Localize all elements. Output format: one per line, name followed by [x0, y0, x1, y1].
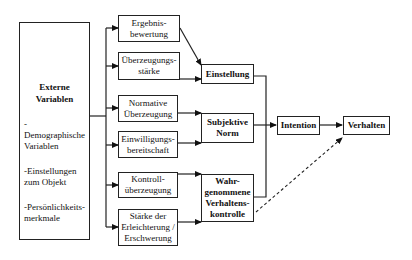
- belief-box-belief-strength: Überzeugungs- stärke: [118, 52, 180, 80]
- attitude-label: Einstellung: [206, 69, 250, 80]
- external-variables-box: Externe Variablen -Demographische Variab…: [19, 22, 90, 240]
- belief-box-motivation-to-comply: Einwilligungs- bereitschaft: [118, 131, 178, 158]
- behavior-label: Verhalten: [348, 120, 386, 131]
- subjective-norm-label: Subjektive Norm: [207, 117, 248, 139]
- external-item-personality: -Persönlichkeits- merkmale: [24, 202, 85, 224]
- belief-label: Ergebnis- bewertung: [130, 18, 168, 40]
- belief-box-normative-belief: Normative Überzeugung: [118, 95, 178, 122]
- attitude-box: Einstellung: [201, 64, 254, 84]
- belief-box-outcome-evaluation: Ergebnis- bewertung: [118, 15, 180, 42]
- external-variables-title: Externe Variablen: [24, 81, 85, 105]
- belief-label: Stärke der Erleichterung / Erschwerung: [121, 211, 175, 244]
- external-item-attitudes-object: -Einstellungen zum Objekt: [24, 166, 85, 188]
- belief-label: Kontroll- überzeugung: [125, 174, 171, 196]
- belief-label: Überzeugungs- stärke: [122, 55, 177, 77]
- belief-box-control-belief: Kontroll- überzeugung: [118, 172, 178, 198]
- belief-label: Normative Überzeugung: [124, 98, 172, 120]
- intention-box: Intention: [277, 116, 320, 135]
- external-item-demographic: -Demographische Variablen: [24, 119, 85, 152]
- intention-label: Intention: [281, 120, 317, 131]
- belief-label: Einwilligungs- bereitschaft: [121, 134, 175, 156]
- subjective-norm-box: Subjektive Norm: [201, 113, 254, 143]
- belief-box-facilitation-strength: Stärke der Erleichterung / Erschwerung: [118, 209, 178, 246]
- behavior-box: Verhalten: [343, 116, 390, 135]
- pbc-label: Wahr- genommene Verhaltens- kontrolle: [205, 176, 251, 220]
- perceived-behavioral-control-box: Wahr- genommene Verhaltens- kontrolle: [201, 174, 254, 222]
